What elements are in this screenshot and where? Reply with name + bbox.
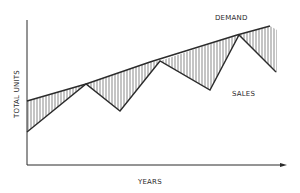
diagram-canvas: DEMAND SALES YEARS TOTAL UNITS xyxy=(0,0,300,193)
x-axis-label: YEARS xyxy=(137,178,162,186)
x-axis-arrow-icon xyxy=(280,163,287,167)
demand-label: DEMAND xyxy=(215,14,247,22)
y-axis-label: TOTAL UNITS xyxy=(13,70,21,119)
gap-region-3 xyxy=(160,35,239,90)
sales-label: SALES xyxy=(232,90,255,98)
sales-line xyxy=(27,35,276,132)
gap-region-2 xyxy=(86,61,160,111)
demand-vs-sales-diagram: DEMAND SALES YEARS TOTAL UNITS xyxy=(0,0,300,193)
